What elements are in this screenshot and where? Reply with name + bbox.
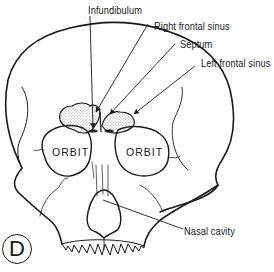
panel-letter: D xyxy=(9,236,25,262)
nasal-cavity-outline xyxy=(87,190,120,238)
left-frontal-sinus xyxy=(102,112,134,133)
label-septum: Septum xyxy=(180,39,212,50)
frontal-sinuses xyxy=(60,103,135,133)
panel-letter-badge: D xyxy=(2,234,32,264)
sinus-septum xyxy=(100,112,101,132)
left-temporal-line xyxy=(18,87,28,168)
skull-diagram: Infundibulum Right frontal sinus Septum … xyxy=(0,0,274,272)
right-frontal-sinus-leader xyxy=(96,24,148,112)
label-right-frontal-sinus: Right frontal sinus xyxy=(154,21,230,32)
label-nasal-cavity: Nasal cavity xyxy=(184,226,235,237)
left-cheek-outline xyxy=(15,168,62,244)
right-frontal-sinus xyxy=(60,103,100,133)
left-frontal-sinus-leader xyxy=(134,66,195,114)
label-infundibulum: Infundibulum xyxy=(88,5,142,16)
right-maxilla-suture xyxy=(140,185,163,212)
upper-teeth xyxy=(62,240,144,255)
left-maxilla-suture xyxy=(40,178,68,216)
label-left-frontal-sinus: Left frontal sinus xyxy=(201,58,270,69)
label-orbit-left: ORBIT xyxy=(126,147,163,158)
nasal-cavity-leader xyxy=(103,200,183,229)
septum-leader xyxy=(110,44,175,114)
label-orbit-right: ORBIT xyxy=(52,147,89,158)
